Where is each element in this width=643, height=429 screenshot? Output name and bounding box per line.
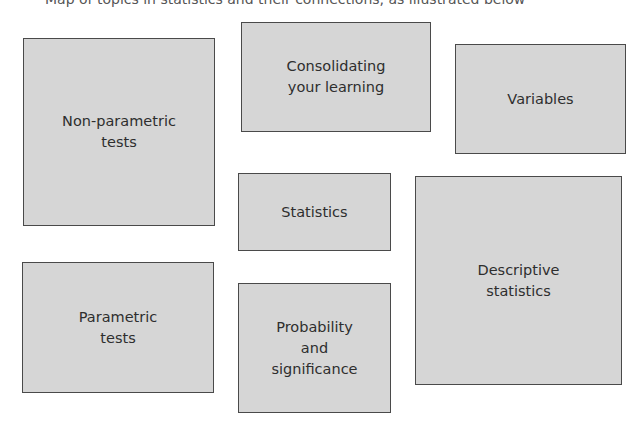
box-label: Parametric tests [79, 307, 158, 349]
box-label: Descriptive statistics [477, 260, 559, 302]
box-probability-and-significance: Probability and significance [238, 283, 391, 413]
box-label: Consolidating your learning [287, 56, 386, 98]
box-statistics: Statistics [238, 173, 391, 251]
top-caption-partial: Map of topics in statistics and their co… [45, 0, 525, 7]
box-label: Variables [507, 89, 573, 110]
box-variables: Variables [455, 44, 626, 154]
box-label: Statistics [281, 202, 347, 223]
box-non-parametric-tests: Non-parametric tests [23, 38, 215, 226]
box-label: Probability and significance [271, 317, 357, 380]
box-descriptive-statistics: Descriptive statistics [415, 176, 622, 385]
box-label: Non-parametric tests [62, 111, 176, 153]
box-consolidating-your-learning: Consolidating your learning [241, 22, 431, 132]
box-parametric-tests: Parametric tests [22, 262, 214, 393]
